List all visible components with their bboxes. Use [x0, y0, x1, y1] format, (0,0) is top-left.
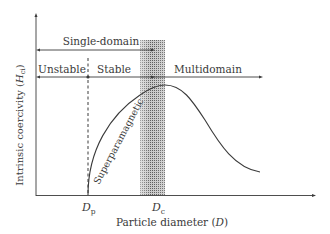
- superparamagnetic-label: Superparamagnetic: [91, 96, 146, 185]
- coercivity-diagram: Single-domain Unstable Stable Multidomai…: [0, 0, 330, 234]
- y-axis: [35, 13, 38, 196]
- single-domain-arrow: [36, 49, 155, 52]
- x-axis: [36, 194, 316, 197]
- stable-label: Stable: [97, 63, 131, 75]
- x-axis-label: Particle diameter (D): [116, 216, 228, 228]
- critical-diameter-band: [140, 40, 165, 195]
- unstable-label: Unstable: [38, 63, 86, 75]
- single-domain-label: Single-domain: [63, 35, 140, 47]
- dp-tick-label: Dp: [81, 201, 96, 216]
- dc-tick-label: Dc: [151, 201, 165, 216]
- y-axis-label: Intrinsic coercivity (Hci): [14, 64, 27, 186]
- multidomain-label: Multidomain: [174, 63, 242, 75]
